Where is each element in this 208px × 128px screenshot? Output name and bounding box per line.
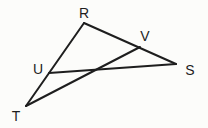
segment-TV — [26, 47, 140, 106]
label-S: S — [185, 62, 194, 78]
label-T: T — [12, 108, 21, 124]
label-U: U — [33, 61, 43, 77]
triangle-diagram: R V S U T — [0, 0, 208, 128]
diagram-canvas: R V S U T — [0, 0, 208, 128]
label-V: V — [140, 28, 150, 44]
segment-US — [49, 64, 176, 73]
label-R: R — [79, 5, 89, 21]
segment-RS — [84, 23, 176, 64]
